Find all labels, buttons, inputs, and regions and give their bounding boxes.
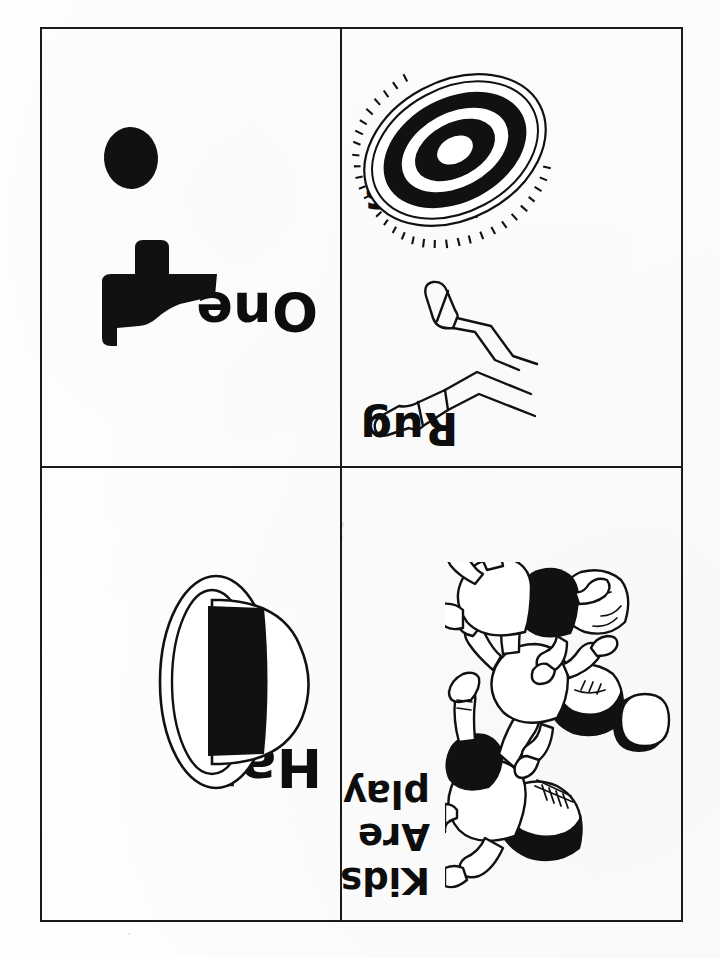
flashcard-rug-legs-content: Rug Legs xyxy=(342,29,681,466)
hat-icon xyxy=(128,562,328,802)
flashcard-one[interactable]: One xyxy=(42,29,342,468)
sentence-line-1: Kids xyxy=(358,858,430,902)
rug-icon xyxy=(352,47,557,252)
sentence-kids-are-playing: Kids Are playing. xyxy=(358,771,430,902)
flashcard-kids-playing[interactable]: Kids Are playing. xyxy=(342,468,681,920)
dot-icon xyxy=(102,125,160,191)
flashcard-hat-content: Hat xyxy=(42,468,340,920)
scanned-page: One Rug Legs xyxy=(0,0,720,958)
sentence-line-2: Are xyxy=(358,815,430,859)
flashcard-kids-playing-content: Kids Are playing. xyxy=(342,468,681,920)
sentence-line-3: playing. xyxy=(358,771,430,815)
numeral-one-icon xyxy=(95,236,235,356)
legs-icon xyxy=(364,277,549,452)
flashcard-rug-legs[interactable]: Rug Legs xyxy=(342,29,681,468)
flashcard-one-content: One xyxy=(42,29,340,466)
kids-playing-icon xyxy=(445,562,675,892)
flashcard-grid: One Rug Legs xyxy=(40,27,683,922)
flashcard-hat[interactable]: Hat xyxy=(42,468,342,920)
